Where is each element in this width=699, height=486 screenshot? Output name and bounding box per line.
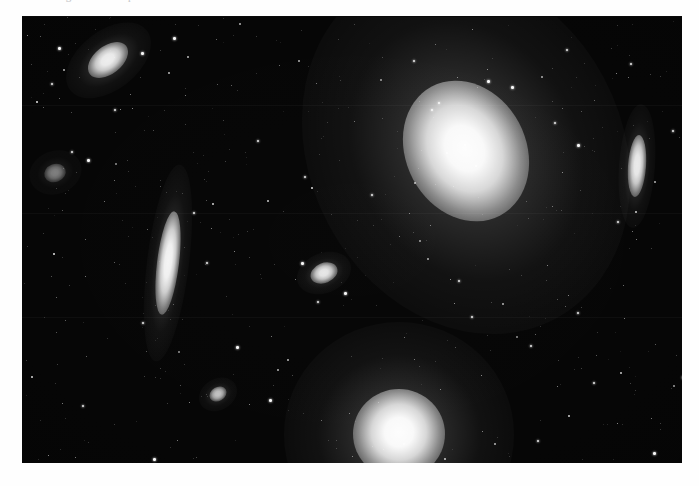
star-point [182, 193, 183, 194]
star-point [279, 65, 280, 66]
star-point [114, 262, 115, 263]
star-point [558, 360, 559, 361]
star-point [68, 190, 69, 191]
star-point [526, 201, 527, 202]
star-point [87, 159, 90, 162]
star-point [276, 40, 277, 41]
star-point [193, 152, 194, 153]
star-point [338, 39, 339, 40]
page-margin-bottom [0, 463, 699, 486]
star-point [184, 247, 185, 248]
star-point [454, 303, 455, 304]
star-point [173, 37, 176, 40]
star-point [566, 49, 568, 51]
star-point [352, 456, 353, 457]
star-point [114, 57, 115, 58]
star-point [481, 375, 482, 376]
star-point [354, 121, 355, 122]
star-point [596, 355, 597, 356]
star-point [245, 152, 246, 153]
star-point [206, 262, 208, 264]
star-point [562, 108, 563, 109]
star-point [617, 423, 618, 424]
star-point [413, 60, 415, 62]
star-point [565, 306, 566, 307]
star-point [452, 449, 453, 450]
star-point [143, 313, 144, 314]
star-point [141, 52, 144, 55]
star-point [369, 43, 370, 44]
star-point [649, 138, 650, 139]
star-point [446, 49, 447, 50]
star-point [607, 424, 608, 425]
star-point [394, 176, 395, 177]
star-point [554, 122, 556, 124]
star-point [56, 297, 57, 298]
star-point [200, 222, 201, 223]
star-point [659, 223, 660, 224]
star-point [635, 390, 636, 391]
star-point [53, 253, 55, 255]
star-point [393, 282, 394, 283]
star-point [115, 163, 117, 165]
star-point [321, 138, 322, 139]
star-point [256, 36, 257, 37]
star-point [27, 246, 28, 247]
scanned-page: of the Virgo cluster — plate scan [0, 0, 699, 486]
star-point [223, 42, 224, 43]
star-point [357, 220, 358, 221]
star-point [373, 225, 374, 226]
star-point [277, 369, 279, 371]
star-point [229, 149, 230, 150]
galaxy-bright-elliptical-bottom [353, 389, 445, 463]
star-point [160, 180, 161, 181]
star-point [308, 111, 309, 112]
star-point [372, 446, 373, 447]
star-point [617, 221, 619, 223]
star-point [595, 85, 596, 86]
star-point [546, 280, 547, 281]
star-point [475, 165, 477, 167]
star-point [530, 345, 532, 347]
star-point [160, 186, 161, 187]
star-point [110, 17, 111, 18]
galaxy-bright-elliptical-bottom-halo [284, 322, 514, 464]
star-point [238, 234, 239, 235]
star-point [431, 109, 433, 111]
star-point [82, 405, 84, 407]
star-point [382, 428, 383, 429]
star-point [557, 386, 558, 387]
star-point [491, 302, 492, 303]
star-point [676, 355, 677, 356]
star-point [621, 168, 622, 169]
star-point [167, 403, 168, 404]
star-point [381, 219, 382, 220]
star-point [130, 94, 131, 95]
star-point [327, 122, 328, 123]
star-point [475, 265, 476, 266]
astrophoto-figure [22, 17, 682, 463]
star-point [40, 420, 41, 421]
galaxy-small-elliptical-center-halo [291, 244, 358, 302]
star-point [155, 340, 156, 341]
galaxy-faint-fuzz-left-edge [42, 161, 69, 185]
star-point [633, 125, 634, 126]
star-point [578, 357, 579, 358]
star-point [75, 457, 76, 458]
star-point [354, 24, 355, 25]
star-point [419, 101, 420, 102]
star-point [430, 225, 431, 226]
star-point [660, 76, 661, 77]
star-point [351, 356, 352, 357]
star-point [142, 297, 143, 298]
star-point [153, 130, 154, 131]
star-point [235, 264, 236, 265]
star-point [341, 282, 342, 283]
star-point [490, 350, 491, 351]
star-point [492, 58, 493, 59]
star-point [168, 72, 170, 74]
star-point [232, 314, 233, 315]
star-point [339, 76, 340, 77]
star-point [180, 393, 181, 394]
star-point [321, 252, 322, 253]
